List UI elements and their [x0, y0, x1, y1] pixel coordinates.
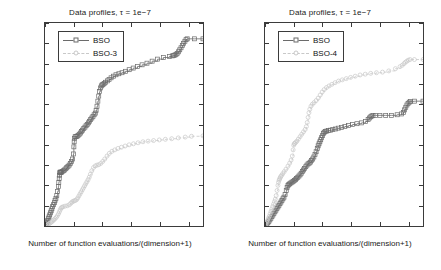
- y-tick-mark: [265, 64, 269, 65]
- legend-row-bso3: BSO-3: [63, 48, 117, 58]
- data-profiles-figure: Data profiles, τ = 1e−7 Proportion of pr…: [0, 0, 441, 270]
- legend-label-bso4: BSO-4: [313, 49, 337, 58]
- y-tick-mark: [419, 84, 423, 85]
- y-tick-mark: [265, 185, 269, 186]
- x-tick-mark: [351, 23, 352, 27]
- y-tick-mark: [45, 84, 49, 85]
- y-tick-mark: [199, 206, 203, 207]
- x-tick-mark: [131, 23, 132, 27]
- x-tick-mark: [409, 222, 410, 226]
- x-tick-mark: [294, 222, 295, 226]
- chart-title-left: Data profiles, τ = 1e−7: [0, 8, 220, 17]
- y-tick-mark: [199, 145, 203, 146]
- y-tick-mark: [45, 185, 49, 186]
- x-tick-mark: [322, 222, 323, 226]
- y-tick-mark: [265, 84, 269, 85]
- y-tick-mark: [419, 64, 423, 65]
- y-tick-mark: [265, 104, 269, 105]
- plot-area-right: 00.10.20.30.40.50.60.70.80.9102000400060…: [264, 22, 424, 227]
- y-tick-mark: [45, 125, 49, 126]
- y-tick-mark: [265, 206, 269, 207]
- x-tick-mark: [265, 23, 266, 27]
- y-tick-mark: [419, 185, 423, 186]
- y-tick-mark: [265, 145, 269, 146]
- x-tick-mark: [189, 23, 190, 27]
- plot-area-left: 00.10.20.30.40.50.60.70.80.9102000400060…: [44, 22, 204, 227]
- y-tick-mark: [265, 165, 269, 166]
- y-tick-mark: [45, 104, 49, 105]
- x-tick-mark: [380, 23, 381, 27]
- legend-swatch-bso3: [63, 49, 89, 58]
- chart-panel-left: Data profiles, τ = 1e−7 Proportion of pr…: [0, 0, 220, 270]
- y-tick-mark: [419, 206, 423, 207]
- y-tick-mark: [419, 125, 423, 126]
- x-tick-mark: [74, 222, 75, 226]
- x-tick-mark: [45, 23, 46, 27]
- y-tick-mark: [199, 125, 203, 126]
- y-tick-mark: [199, 64, 203, 65]
- y-tick-mark: [419, 165, 423, 166]
- y-tick-mark: [45, 145, 49, 146]
- y-tick-mark: [419, 104, 423, 105]
- x-axis-label-right: Number of function evaluations/(dimensio…: [220, 239, 440, 248]
- y-tick-mark: [45, 206, 49, 207]
- y-tick-mark: [199, 84, 203, 85]
- legend-row-bso: BSO: [63, 35, 117, 45]
- x-tick-mark: [189, 222, 190, 226]
- y-tick-mark: [199, 23, 203, 24]
- legend-swatch-bso: [283, 36, 309, 45]
- legend-row-bso: BSO: [283, 35, 337, 45]
- x-tick-mark: [131, 222, 132, 226]
- legend-label-bso: BSO: [313, 36, 330, 45]
- chart-panel-right: Data profiles, τ = 1e−7 Proportion of pr…: [220, 0, 440, 270]
- y-tick-mark: [265, 125, 269, 126]
- chart-title-right: Data profiles, τ = 1e−7: [220, 8, 440, 17]
- y-tick-mark: [45, 64, 49, 65]
- x-tick-mark: [351, 222, 352, 226]
- legend-swatch-bso4: [283, 49, 309, 58]
- legend-label-bso3: BSO-3: [93, 49, 117, 58]
- y-tick-mark: [265, 43, 269, 44]
- x-tick-mark: [45, 222, 46, 226]
- y-tick-mark: [199, 185, 203, 186]
- y-tick-mark: [199, 165, 203, 166]
- legend-right: BSO BSO-4: [278, 31, 344, 62]
- y-tick-mark: [419, 43, 423, 44]
- legend-row-bso4: BSO-4: [283, 48, 337, 58]
- legend-label-bso: BSO: [93, 36, 110, 45]
- legend-left: BSO BSO-3: [58, 31, 124, 62]
- x-tick-mark: [265, 222, 266, 226]
- x-axis-label-left: Number of function evaluations/(dimensio…: [0, 239, 220, 248]
- y-tick-mark: [45, 43, 49, 44]
- y-tick-mark: [419, 145, 423, 146]
- y-tick-mark: [45, 165, 49, 166]
- x-tick-mark: [322, 23, 323, 27]
- x-tick-mark: [74, 23, 75, 27]
- x-tick-mark: [102, 222, 103, 226]
- x-tick-mark: [380, 222, 381, 226]
- x-tick-mark: [294, 23, 295, 27]
- legend-swatch-bso: [63, 36, 89, 45]
- x-tick-mark: [409, 23, 410, 27]
- y-tick-mark: [419, 23, 423, 24]
- x-tick-mark: [102, 23, 103, 27]
- x-tick-mark: [160, 23, 161, 27]
- y-tick-mark: [199, 104, 203, 105]
- y-tick-mark: [199, 43, 203, 44]
- x-tick-mark: [160, 222, 161, 226]
